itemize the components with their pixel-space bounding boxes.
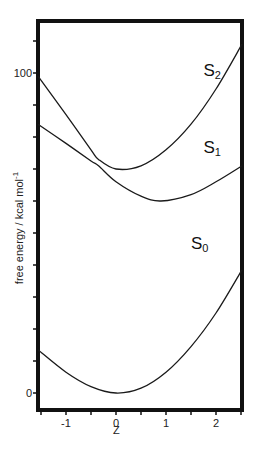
energy-curves — [38, 44, 242, 393]
x-tick-label: 2 — [213, 417, 219, 429]
y-tick-label: 100 — [14, 67, 32, 79]
energy-chart: -1012 0100 S0S1S2 Z free energy / kcal m… — [0, 0, 258, 449]
curve-s0 — [38, 270, 242, 393]
x-tick-label: -1 — [61, 417, 71, 429]
y-tick-label: 0 — [26, 387, 32, 399]
x-axis-ticks: -1012 — [41, 410, 241, 429]
y-axis-title: free energy / kcal mol-1 — [11, 171, 25, 284]
series-labels: S0S1S2 — [191, 61, 221, 254]
x-tick-label: 1 — [163, 417, 169, 429]
curve-s1 — [38, 124, 242, 201]
y-axis-title-main: free energy / kcal mol — [13, 179, 25, 284]
y-axis-title-sup: -1 — [11, 171, 20, 179]
label-s2: S2 — [204, 61, 221, 81]
label-s0: S0 — [191, 234, 208, 254]
label-s1: S1 — [204, 138, 221, 158]
x-axis-title: Z — [113, 424, 120, 436]
